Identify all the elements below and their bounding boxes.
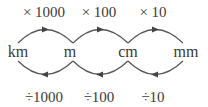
unit-cm: cm — [118, 43, 138, 60]
diagram-canvas: × 1000 × 100 × 10 km m cm mm ÷1000 ÷100 … — [0, 0, 208, 107]
multiply-label-cm-mm: × 10 — [139, 4, 166, 20]
unit-conversion-diagram: × 1000 × 100 × 10 km m cm mm ÷1000 ÷100 … — [0, 0, 208, 107]
multiply-label-m-cm: × 100 — [82, 4, 117, 20]
lower-arc-m-km — [18, 61, 73, 75]
lower-arc-mm-cm — [128, 61, 183, 75]
multiply-label-km-m: × 1000 — [23, 4, 65, 20]
arrow-left-icon — [41, 72, 48, 78]
divide-label-cm-m: ÷100 — [84, 89, 115, 105]
unit-mm: mm — [174, 43, 199, 60]
upper-arc-cm-mm — [128, 30, 183, 44]
unit-km: km — [8, 43, 29, 60]
upper-arc-km-m — [18, 30, 73, 44]
unit-m: m — [64, 43, 77, 60]
divide-label-m-km: ÷1000 — [25, 89, 63, 105]
lower-arc-cm-m — [73, 61, 128, 75]
divide-label-mm-cm: ÷10 — [141, 89, 164, 105]
arrow-left-icon — [96, 72, 103, 78]
arrow-left-icon — [151, 72, 158, 78]
upper-arc-m-cm — [73, 30, 128, 44]
arrow-right-icon — [152, 27, 159, 33]
arrow-right-icon — [42, 27, 49, 33]
arrow-right-icon — [97, 27, 104, 33]
